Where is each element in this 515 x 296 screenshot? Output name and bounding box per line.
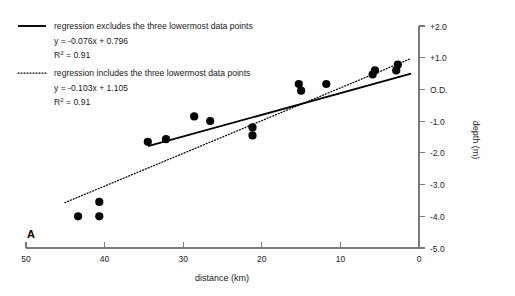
x-tick-label-50: 50 [21, 254, 31, 264]
data-point [190, 112, 198, 120]
legend-group: regression excludes the three lowermost … [18, 21, 253, 107]
legend-r2-exclude: R2 = 0.91 [54, 49, 90, 61]
regression-line-dotted [65, 59, 411, 203]
y-axis-title: depth (m) [471, 121, 481, 160]
y-tick-label-neg2: -2.0 [430, 148, 445, 158]
legend-r2-value-include: = 0.91 [64, 97, 91, 107]
y-tick-label-neg4: -4.0 [430, 212, 445, 222]
legend-r2-include: R2 = 0.91 [54, 96, 90, 108]
data-point [95, 212, 103, 220]
y-tick-label-neg3: -3.0 [430, 180, 445, 190]
legend-label-include: regression includes the three lowermost … [54, 68, 250, 78]
data-point [371, 66, 379, 74]
regression-lines-group [65, 59, 411, 203]
legend-equation-include: y = -0.103x + 1.105 [54, 83, 128, 93]
panel-label-a: A [27, 228, 35, 240]
data-point [295, 80, 303, 88]
regression-line-solid [148, 74, 411, 147]
x-axis-tick-labels: 50 40 30 20 10 0 [21, 254, 421, 264]
scatter-plot-svg: 50 40 30 20 10 0 distance (km) +2.0 +1.0… [0, 0, 515, 296]
data-point [95, 198, 103, 206]
y-tick-label-2: +2.0 [430, 22, 447, 32]
data-point [162, 135, 170, 143]
legend-label-exclude: regression excludes the three lowermost … [54, 21, 253, 31]
y-axis-ticks [419, 26, 425, 248]
x-tick-label-30: 30 [178, 254, 188, 264]
y-tick-label-neg5: -5.0 [430, 244, 445, 254]
y-tick-label-1: +1.0 [430, 53, 447, 63]
legend-r2-value-exclude: = 0.91 [64, 50, 91, 60]
x-tick-label-40: 40 [100, 254, 110, 264]
legend-equation-exclude: y = -0.076x + 0.796 [54, 36, 128, 46]
data-point [248, 123, 256, 131]
x-tick-label-20: 20 [257, 254, 267, 264]
x-axis-title: distance (km) [195, 273, 249, 283]
figure-panel-a: 50 40 30 20 10 0 distance (km) +2.0 +1.0… [0, 0, 515, 296]
data-point [394, 61, 402, 69]
x-tick-label-0: 0 [417, 254, 422, 264]
x-tick-label-10: 10 [336, 254, 346, 264]
data-point [144, 138, 152, 146]
y-tick-label-neg1: -1.0 [430, 117, 445, 127]
data-point [74, 212, 82, 220]
data-point [248, 131, 256, 139]
x-axis-ticks [26, 242, 419, 248]
y-tick-label-od: O.D. [430, 85, 447, 95]
data-point [206, 117, 214, 125]
y-axis-tick-labels: +2.0 +1.0 O.D. -1.0 -2.0 -3.0 -4.0 -5.0 [430, 22, 447, 254]
data-point [322, 80, 330, 88]
